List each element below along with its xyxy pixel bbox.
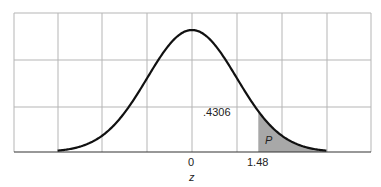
tick-label-1-48: 1.48	[247, 156, 268, 168]
area-value-label: .4306	[203, 106, 231, 118]
tick-label-0: 0	[188, 156, 194, 168]
shade-p-label: P	[265, 134, 272, 146]
x-axis-label: z	[189, 171, 195, 183]
